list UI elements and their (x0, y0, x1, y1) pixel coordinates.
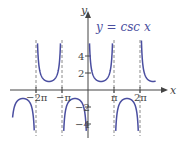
y-axis-label: y (80, 4, 88, 17)
x-tick-neg-2pi: −2π (26, 92, 48, 103)
y-tick-neg-4: −4 (75, 119, 90, 130)
x-axis-arrow-icon (161, 87, 168, 93)
x-axis-label: x (170, 84, 177, 97)
csc-branch (141, 41, 155, 82)
y-tick-neg-2: −2 (75, 102, 90, 113)
chart-title: y = csc x (95, 20, 151, 34)
x-tick-2pi: 2π (134, 92, 147, 103)
x-tick-pi: π (111, 92, 118, 103)
y-tick-2: 2 (78, 68, 84, 79)
csc-branch (13, 99, 35, 131)
csc-branch (38, 43, 61, 81)
csc-branch (90, 43, 113, 81)
y-tick-4: 4 (78, 51, 84, 62)
csc-chart: x y y = csc x −2π −π π 2π 4 2 −2 −4 (0, 0, 177, 142)
x-tick-neg-pi: −π (56, 92, 71, 103)
csc-branch (116, 99, 139, 131)
